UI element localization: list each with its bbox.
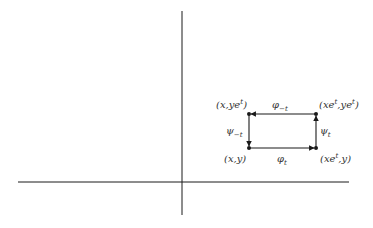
corner-dot-top-right (314, 112, 318, 116)
corner-dot-bottom-left (247, 146, 251, 150)
label-edge-right: ψt (320, 125, 331, 139)
label-edge-bottom: φt (277, 153, 287, 167)
label-bottom-right: (xet,y) (320, 152, 351, 164)
label-bottom-left: (x,y) (224, 153, 246, 164)
label-top-left: (x,yet) (216, 98, 247, 110)
corner-dot-top-left (247, 112, 251, 116)
label-edge-left: ψ−t (226, 125, 243, 139)
flow-diagram: (x,yet) (xet,yet) (x,y) (xet,y) φ−t ψt ψ… (0, 0, 373, 228)
corner-dot-bottom-right (314, 146, 318, 150)
label-edge-top: φ−t (272, 99, 288, 113)
label-top-right: (xet,yet) (319, 98, 359, 110)
